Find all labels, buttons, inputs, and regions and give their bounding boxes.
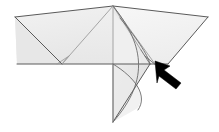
origami-diagram: Origami folding step diagram Line drawin… [0, 0, 219, 132]
arrow-glyph [155, 61, 181, 89]
origami-figure-container: Origami folding step diagram Line drawin… [0, 0, 219, 132]
fold-direction-arrow [155, 61, 181, 89]
